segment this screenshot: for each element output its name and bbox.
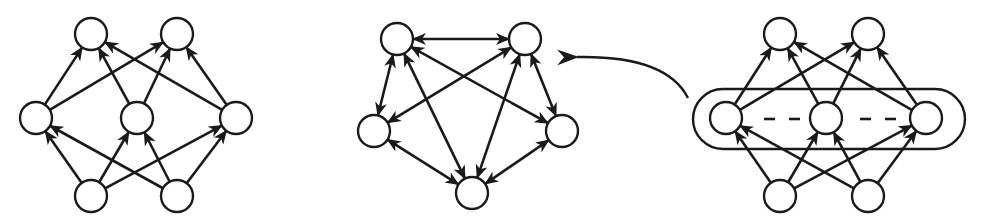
graph-node xyxy=(456,177,488,209)
directed-edge xyxy=(833,48,861,103)
graph-node xyxy=(810,102,842,134)
graph-node xyxy=(852,18,884,50)
directed-edge xyxy=(878,131,917,183)
graph-node xyxy=(910,102,942,134)
graph-diagram xyxy=(0,0,990,224)
graph-node xyxy=(220,102,252,134)
directed-edge xyxy=(740,126,854,189)
bidirectional-edge xyxy=(477,54,520,178)
graph-node xyxy=(161,18,193,50)
directed-edge xyxy=(735,47,772,104)
directed-edge xyxy=(788,132,818,182)
graph-node xyxy=(764,18,796,50)
directed-edge xyxy=(99,132,129,182)
edges xyxy=(45,39,917,188)
bidirectional-edge xyxy=(531,54,556,116)
graph-node xyxy=(20,102,52,134)
directed-edge xyxy=(186,47,227,105)
directed-edge xyxy=(99,48,130,104)
graph-node xyxy=(381,23,413,55)
bidirectional-edge xyxy=(485,140,549,184)
graph-node xyxy=(75,18,107,50)
graph-node xyxy=(852,180,884,212)
directed-edge xyxy=(144,48,170,103)
directed-edge xyxy=(740,42,854,110)
graph-node xyxy=(546,115,578,147)
transition-arrow xyxy=(577,57,688,98)
bidirectional-edge xyxy=(378,55,393,116)
graph-node xyxy=(358,115,390,147)
directed-edge xyxy=(877,47,917,105)
directed-edge xyxy=(105,42,222,110)
graph-node xyxy=(121,102,153,134)
directed-edge xyxy=(834,132,861,182)
directed-edge xyxy=(794,42,912,110)
graph-node xyxy=(509,23,541,55)
graph-node xyxy=(764,180,796,212)
directed-edge xyxy=(105,126,222,189)
graph-node xyxy=(710,102,742,134)
directed-edge xyxy=(45,47,82,104)
directed-edge xyxy=(794,126,912,189)
graph-node xyxy=(161,180,193,212)
directed-edge xyxy=(788,48,819,104)
graph-node xyxy=(75,180,107,212)
directed-edge xyxy=(187,131,227,183)
